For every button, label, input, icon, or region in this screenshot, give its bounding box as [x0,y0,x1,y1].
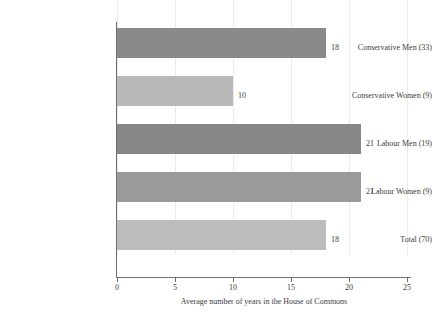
bar-conservative-men [117,28,326,58]
x-axis-title: Average number of years in the House of … [117,296,411,307]
tick-label-5: 5 [163,283,187,293]
x-axis-line [117,277,411,278]
tick-label-15: 15 [279,283,303,293]
bar-value-conservative-men: 18 [331,43,339,53]
category-label-conservative-women: Conservative Women (9) [320,91,432,101]
tick-label-0: 0 [105,283,129,293]
tick-label-10: 10 [221,283,245,293]
category-label-labour-men: Labour Men (19) [320,139,432,149]
bar-chart: Conservative Men (33) Conservative Women… [0,0,432,320]
tick-mark-25 [407,278,408,282]
bar-total [117,220,326,250]
tick-mark-20 [349,278,350,282]
tick-label-20: 20 [337,283,361,293]
bar-value-labour-women: 21 [366,187,374,197]
tick-label-25: 25 [395,283,419,293]
bar-conservative-women [117,76,233,106]
bar-value-conservative-women: 10 [238,91,246,101]
tick-mark-5 [175,278,176,282]
tick-mark-0 [117,278,118,282]
category-label-labour-women: Labour Women (9) [320,187,432,197]
tick-mark-10 [233,278,234,282]
gridline-25 [407,0,408,255]
bar-value-labour-men: 21 [366,139,374,149]
bar-value-total: 18 [331,235,339,245]
tick-mark-15 [291,278,292,282]
